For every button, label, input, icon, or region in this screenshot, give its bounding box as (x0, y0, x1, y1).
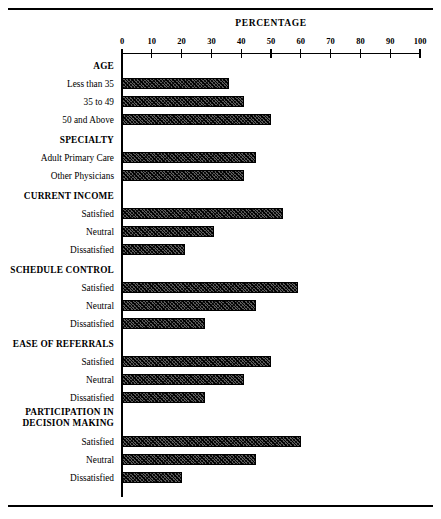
x-tick-mark (121, 49, 122, 58)
category-label: Less than 35 (67, 75, 114, 93)
x-axis-title: PERCENTAGE (122, 18, 420, 28)
group-label: SPECIALTY (60, 131, 114, 149)
bar-row: 35 to 49 (0, 93, 441, 111)
x-tick-label: 50 (267, 36, 276, 46)
x-axis-tick-labels: 0102030405060708090100 (0, 36, 441, 48)
bottom-rule (8, 505, 433, 507)
x-tick-label: 80 (356, 36, 365, 46)
x-tick-mark (330, 49, 331, 58)
bar-row: Dissatisfied (0, 469, 441, 487)
bar-row: Neutral (0, 451, 441, 469)
x-tick-mark (241, 49, 242, 58)
x-tick-label: 30 (207, 36, 216, 46)
x-tick-label: 40 (237, 36, 246, 46)
bar (122, 300, 256, 311)
bar (122, 356, 271, 367)
x-tick-label: 70 (326, 36, 335, 46)
bar (122, 436, 301, 447)
group-header-row: EASE OF REFERRALS (0, 335, 441, 353)
category-label: Dissatisfied (70, 469, 114, 487)
category-label: Neutral (86, 297, 114, 315)
bar-row: Satisfied (0, 205, 441, 223)
category-label: 50 and Above (62, 111, 114, 129)
plot-area: AGELess than 3535 to 4950 and AboveSPECI… (0, 53, 441, 505)
bar-row: 50 and Above (0, 111, 441, 129)
group-header-row: SCHEDULE CONTROL (0, 261, 441, 279)
group-label: SCHEDULE CONTROL (10, 261, 114, 279)
x-tick-label: 60 (297, 36, 306, 46)
x-tick-label: 10 (148, 36, 157, 46)
x-tick-label: 20 (177, 36, 186, 46)
x-tick-mark (151, 49, 152, 58)
bar (122, 318, 205, 329)
group-header-row: SPECIALTY (0, 131, 441, 149)
category-label: Dissatisfied (70, 315, 114, 333)
group-label: PARTICIPATION INDECISION MAKING (22, 407, 114, 429)
bar (122, 392, 205, 403)
bar-row: Less than 35 (0, 75, 441, 93)
x-tick-mark (300, 49, 301, 58)
x-tick-mark (181, 49, 182, 58)
x-tick-mark (211, 49, 212, 58)
bar (122, 208, 283, 219)
category-label: Other Physicians (51, 167, 114, 185)
group-label: CURRENT INCOME (24, 187, 114, 205)
bar (122, 472, 182, 483)
bar-row: Neutral (0, 297, 441, 315)
category-label: Adult Primary Care (41, 149, 114, 167)
category-label: Neutral (86, 223, 114, 241)
bar (122, 96, 244, 107)
bar (122, 226, 214, 237)
bar (122, 244, 185, 255)
bar (122, 114, 271, 125)
category-label: 35 to 49 (84, 93, 114, 111)
bar-row: Neutral (0, 223, 441, 241)
bar-row: Other Physicians (0, 167, 441, 185)
category-label: Satisfied (81, 279, 114, 297)
bar (122, 78, 229, 89)
category-label: Neutral (86, 451, 114, 469)
bar-row: Dissatisfied (0, 241, 441, 259)
group-header-row: CURRENT INCOME (0, 187, 441, 205)
x-tick-mark (419, 49, 420, 58)
group-label: AGE (93, 57, 114, 75)
x-tick-mark (270, 49, 271, 58)
category-label: Satisfied (81, 353, 114, 371)
bar (122, 152, 256, 163)
bar-chart: PERCENTAGE 0102030405060708090100 AGELes… (0, 0, 441, 519)
bar-row: Neutral (0, 371, 441, 389)
bar (122, 282, 298, 293)
group-header-row: PARTICIPATION INDECISION MAKING (0, 409, 441, 427)
category-label: Neutral (86, 371, 114, 389)
bar-row: Adult Primary Care (0, 149, 441, 167)
bar (122, 454, 256, 465)
group-header-row: AGE (0, 57, 441, 75)
category-label: Dissatisfied (70, 241, 114, 259)
bar (122, 374, 244, 385)
x-tick-label: 100 (414, 36, 427, 46)
bar (122, 170, 244, 181)
category-label: Satisfied (81, 433, 114, 451)
bar-row: Satisfied (0, 279, 441, 297)
category-label: Satisfied (81, 205, 114, 223)
bar-row: Satisfied (0, 433, 441, 451)
group-label: EASE OF REFERRALS (13, 335, 114, 353)
x-tick-label: 0 (120, 36, 124, 46)
bar-row: Dissatisfied (0, 315, 441, 333)
bar-row: Dissatisfied (0, 389, 441, 407)
top-rule (8, 8, 433, 10)
x-tick-mark (360, 49, 361, 58)
bar-row: Satisfied (0, 353, 441, 371)
x-tick-label: 90 (386, 36, 395, 46)
x-tick-mark (390, 49, 391, 58)
category-label: Dissatisfied (70, 389, 114, 407)
